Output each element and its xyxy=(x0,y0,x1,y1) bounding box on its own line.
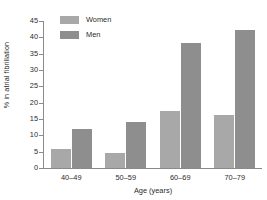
y-axis-tick-label: 35 xyxy=(16,49,38,59)
bar-group xyxy=(44,21,99,168)
y-axis-tick-label: 30 xyxy=(16,65,38,75)
bar-chart: % in atrial fibrillation 051015202530354… xyxy=(0,0,267,200)
y-axis-tick-label: 5 xyxy=(16,147,38,157)
y-axis-tick-label: 20 xyxy=(16,98,38,108)
y-axis-tick-label: 45 xyxy=(16,16,38,26)
y-axis-labels: 051015202530354045 xyxy=(16,0,38,200)
legend-swatch-women xyxy=(60,16,79,24)
x-axis-category-label: 50–59 xyxy=(99,172,154,183)
x-axis-category-label: 60–69 xyxy=(153,172,208,183)
x-axis-line xyxy=(43,168,262,169)
y-axis-tick-label: 40 xyxy=(16,32,38,42)
bar-group xyxy=(208,21,263,168)
bar-women-1 xyxy=(105,153,125,168)
legend-label-men: Men xyxy=(86,30,100,40)
y-axis-tick-label: 15 xyxy=(16,114,38,124)
x-axis-category-label: 70–79 xyxy=(208,172,263,183)
x-axis-labels: 40–4950–5960–6970–79 xyxy=(44,172,262,184)
bar-men-2 xyxy=(181,43,201,168)
bar-men-0 xyxy=(72,129,92,168)
y-axis-tick-label: 10 xyxy=(16,130,38,140)
x-axis-title: Age (years) xyxy=(44,186,262,195)
y-axis-title: % in atrial fibrillation xyxy=(2,0,14,155)
bar-group xyxy=(99,21,154,168)
y-axis-tick-label: 0 xyxy=(16,163,38,173)
bar-women-3 xyxy=(214,115,234,168)
bar-men-1 xyxy=(126,122,146,168)
legend-label-women: Women xyxy=(86,15,111,25)
bar-women-2 xyxy=(160,111,180,168)
bar-men-3 xyxy=(235,30,255,168)
x-axis-category-label: 40–49 xyxy=(44,172,99,183)
plot-area xyxy=(44,21,262,168)
legend-swatch-men xyxy=(60,31,79,39)
bar-women-0 xyxy=(51,149,71,168)
y-axis-tick-label: 25 xyxy=(16,81,38,91)
bar-group xyxy=(153,21,208,168)
